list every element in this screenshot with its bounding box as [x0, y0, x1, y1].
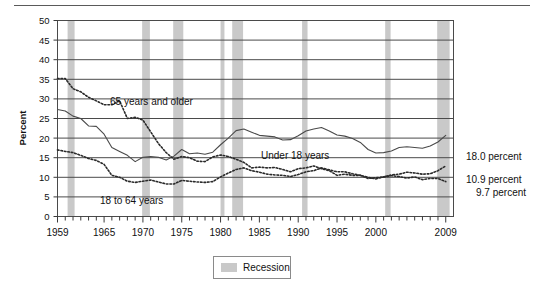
legend-label-recession: Recession — [243, 262, 290, 273]
x-axis-tick-label: 1970 — [132, 227, 155, 238]
y-axis-tick-label: 20 — [39, 133, 50, 144]
x-axis-tick-label: 1959 — [46, 227, 69, 238]
endpoint-annotation-under-18: 18.0 percent — [466, 151, 522, 162]
y-axis-tick-label: 30 — [39, 93, 50, 104]
y-axis-tick-label: 40 — [39, 54, 50, 65]
horizontal-gridlines-group — [58, 40, 454, 197]
y-axis-tick-label: 10 — [39, 172, 50, 183]
y-axis-tick-label: 50 — [39, 15, 50, 26]
x-axis-tick-label: 2000 — [365, 227, 388, 238]
x-axis-tick-label: 1985 — [248, 227, 271, 238]
y-axis-tick-label: 0 — [44, 211, 49, 222]
series-label-18-to-64: 18 to 64 years — [100, 195, 163, 206]
y-axis-tick-label: 15 — [39, 152, 50, 163]
y-axis-tick-label: 25 — [39, 113, 50, 124]
endpoint-annotation-18-to-64: 10.9 percent — [466, 174, 522, 185]
chart-canvas: 05101520253035404550 1959196519701975198… — [0, 0, 543, 292]
x-axis-tick-label: 1980 — [209, 227, 232, 238]
legend-group: Recession — [214, 257, 291, 279]
y-axis-tick-label: 45 — [39, 35, 50, 46]
y-axis-title: Percent — [17, 110, 28, 146]
series-label-65-and-older: 65 years and older — [110, 96, 194, 107]
y-axis-tick-label: 35 — [39, 74, 50, 85]
series-label-under-18: Under 18 years — [261, 150, 329, 161]
x-axis-tick-label: 2009 — [435, 227, 458, 238]
x-axis-tick-label: 1995 — [326, 227, 349, 238]
y-axis-tick-label: 5 — [44, 191, 49, 202]
y-axis-group: 05101520253035404550 — [39, 15, 58, 222]
endpoint-annotation-65-and-older: 9.7 percent — [476, 187, 526, 198]
x-axis-tick-label: 1975 — [171, 227, 194, 238]
x-axis-tick-label: 1965 — [93, 227, 116, 238]
x-axis-tick-label: 1990 — [287, 227, 310, 238]
legend-swatch-recession — [221, 263, 237, 272]
poverty-rate-chart-figure: 05101520253035404550 1959196519701975198… — [0, 0, 543, 292]
x-axis-group: 1959196519701975198019851990199520002009 — [46, 217, 457, 238]
